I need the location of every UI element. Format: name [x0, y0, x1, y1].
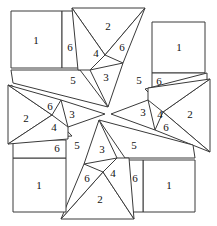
piece-1-bottom-right[interactable]	[143, 160, 195, 212]
piece-1-bottom-left[interactable]	[13, 158, 66, 212]
piece-1-top-left[interactable]	[11, 11, 62, 68]
piece-1-top-right[interactable]	[152, 22, 205, 73]
quilt-block-diagram: 1 6 5 2 4 6 3 1 6 5 2 4 6 3 1 6 5 2 4	[0, 0, 217, 226]
